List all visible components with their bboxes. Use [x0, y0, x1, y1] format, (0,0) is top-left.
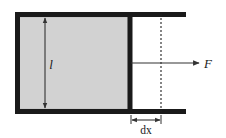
displacement-label: dx: [140, 124, 152, 136]
soap-film-region: [19, 17, 128, 109]
film-length-label: l: [49, 57, 53, 72]
figure-container: l F dx: [0, 0, 226, 138]
soap-film-diagram: l F dx: [0, 0, 226, 138]
applied-force-label: F: [203, 56, 213, 71]
